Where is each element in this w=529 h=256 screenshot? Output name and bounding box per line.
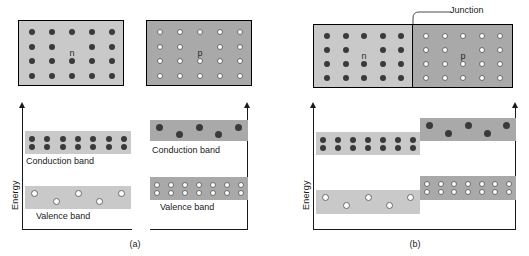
electron-dot [426, 122, 433, 129]
hole-dot [217, 29, 223, 35]
panel-a-baseline [22, 229, 132, 230]
hole-dot [423, 75, 429, 81]
electron-dot [176, 131, 183, 138]
electron-dot [398, 61, 404, 67]
electron-dot [90, 136, 96, 142]
panel-a-p-axis-arrow [244, 102, 250, 108]
panel-a-n-conduction-band [25, 131, 131, 154]
hole-dot [157, 73, 163, 79]
hole-dot [224, 190, 230, 196]
electron-dot [410, 145, 416, 151]
junction-label: Junction [450, 6, 484, 15]
electron-dot [465, 122, 472, 129]
electron-dot [350, 137, 356, 143]
hole-dot [479, 61, 485, 67]
electron-dot [121, 136, 127, 142]
electron-dot [60, 144, 66, 150]
hole-dot [182, 182, 188, 188]
electron-dot [361, 33, 367, 39]
hole-dot [182, 190, 188, 196]
hole-dot [497, 33, 503, 39]
hole-dot [451, 181, 457, 187]
electron-dot [29, 144, 35, 150]
electron-dot [106, 136, 112, 142]
panel-b-p-valence-band [420, 176, 516, 200]
electron-dot [69, 58, 75, 64]
panel-b-energy-axis [313, 108, 314, 230]
electron-dot [410, 137, 416, 143]
hole-dot [424, 181, 430, 187]
hole-dot [479, 189, 485, 195]
electron-dot [89, 58, 95, 64]
hole-dot [217, 73, 223, 79]
hole-dot [196, 182, 202, 188]
hole-dot [438, 189, 444, 195]
hole-dot [492, 181, 498, 187]
hole-dot [465, 189, 471, 195]
panel-b-right-axis-arrow [512, 102, 518, 108]
hole-dot [168, 182, 174, 188]
hole-dot [154, 190, 160, 196]
electron-dot [49, 44, 55, 50]
electron-dot [343, 61, 349, 67]
hole-dot [177, 29, 183, 35]
hole-dot [423, 33, 429, 39]
electron-dot [335, 137, 341, 143]
block-n-label: n [64, 49, 80, 58]
electron-dot [324, 33, 330, 39]
hole-dot [197, 29, 203, 35]
block-b-n-label: n [356, 52, 372, 61]
panel-a-energy-label: Energy [10, 180, 20, 210]
hole-dot [497, 61, 503, 67]
electron-dot [29, 29, 35, 35]
hole-dot [168, 190, 174, 196]
hole-dot [238, 190, 244, 196]
electron-dot [121, 144, 127, 150]
hole-dot [224, 182, 230, 188]
hole-dot [442, 61, 448, 67]
hole-dot [442, 75, 448, 81]
hole-dot [424, 189, 430, 195]
panel-a-caption: (a) [115, 240, 155, 249]
electron-dot [398, 75, 404, 81]
panel-b-p-conduction-band [420, 118, 516, 141]
panel-a-p-conduction-band [150, 120, 248, 141]
hole-dot [157, 29, 163, 35]
electron-dot [49, 58, 55, 64]
electron-dot [324, 47, 330, 53]
hole-dot [322, 194, 329, 201]
electron-dot [343, 33, 349, 39]
panel-b-baseline [313, 229, 516, 230]
hole-dot [210, 182, 216, 188]
electron-dot [215, 131, 222, 138]
electron-dot [69, 29, 75, 35]
hole-dot [438, 181, 444, 187]
electron-dot [196, 124, 203, 131]
electron-dot [380, 137, 386, 143]
hole-dot [492, 189, 498, 195]
electron-dot [89, 73, 95, 79]
electron-dot [398, 47, 404, 53]
hole-dot [237, 73, 243, 79]
hole-dot [197, 58, 203, 64]
hole-dot [479, 47, 485, 53]
electron-dot [361, 61, 367, 67]
electron-dot [89, 44, 95, 50]
hole-dot [497, 75, 503, 81]
hole-dot [157, 44, 163, 50]
hole-dot [479, 75, 485, 81]
block-p-type: p [146, 20, 252, 86]
panel-b-n-valence-band [316, 190, 420, 214]
electron-dot [235, 124, 242, 131]
hole-dot [75, 190, 82, 197]
hole-dot [53, 198, 60, 205]
electron-dot [29, 73, 35, 79]
electron-dot [109, 73, 115, 79]
electron-dot [343, 75, 349, 81]
electron-dot [484, 130, 491, 137]
block-p-label: p [192, 49, 208, 58]
block-b-p-label: p [455, 52, 471, 61]
electron-dot [44, 136, 50, 142]
electron-dot [361, 75, 367, 81]
hole-dot [506, 189, 512, 195]
